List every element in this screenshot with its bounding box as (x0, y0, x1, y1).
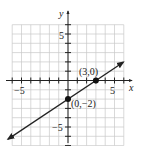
coordinate-plane: x y −5 5 5 −5 (3,0) (0,−2) (0, 0, 143, 146)
point-label-0-neg2: (0,−2) (71, 98, 96, 110)
y-tick-label-5: 5 (59, 30, 64, 41)
y-axis-label: y (58, 8, 64, 19)
point-3-0 (93, 78, 99, 84)
x-axis-label: x (128, 82, 134, 93)
y-tick-label-neg5: −5 (52, 122, 63, 133)
x-tick-label-neg5: −5 (14, 85, 25, 96)
point-label-3-0: (3,0) (79, 66, 98, 78)
x-tick-label-5: 5 (110, 85, 115, 96)
